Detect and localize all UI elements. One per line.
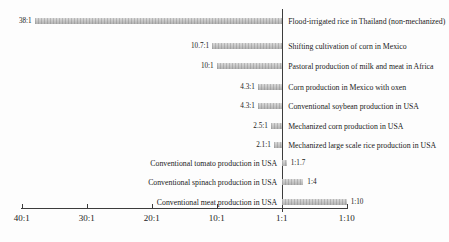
ratio-value-label: 1:1.7 [291, 159, 306, 167]
ratio-bar [258, 84, 282, 90]
ratio-bar [282, 179, 304, 185]
x-axis-tick [87, 204, 88, 208]
category-label: Shifting cultivation of corn in Mexico [288, 42, 406, 51]
category-label: Flood-irrigated rice in Thailand (non-me… [288, 17, 445, 26]
ratio-bar [35, 18, 282, 24]
ratio-bar [274, 142, 282, 148]
ratio-value-label: 2.1:1 [256, 141, 271, 149]
energy-ratio-bar-chart: 40:130:120:110:11:11:10Flood-irrigated r… [0, 0, 449, 242]
x-axis-tick [152, 204, 153, 208]
ratio-bar [282, 199, 347, 205]
x-axis-tick-label: 20:1 [144, 213, 160, 223]
ratio-value-label: 1:4 [307, 178, 316, 186]
ratio-bar [217, 63, 282, 69]
x-axis-tick [22, 204, 23, 208]
x-axis-tick-label: 30:1 [79, 213, 95, 223]
category-label: Conventional spinach production in USA [148, 178, 277, 187]
ratio-value-label: 38:1 [19, 17, 32, 25]
x-axis-tick-label: 1:10 [339, 213, 355, 223]
x-axis-tick-label: 1:1 [276, 213, 288, 223]
x-axis-tick-label: 10:1 [209, 213, 225, 223]
ratio-value-label: 2.5:1 [253, 122, 268, 130]
ratio-bar [282, 160, 287, 166]
ratio-value-label: 4.3:1 [240, 102, 255, 110]
category-label: Corn production in Mexico with oxen [288, 83, 406, 92]
ratio-bar [258, 103, 282, 109]
category-label: Conventional soybean production in USA [288, 102, 419, 111]
ratio-bar [271, 123, 282, 129]
x-axis-tick [347, 204, 348, 208]
ratio-bar [212, 43, 282, 49]
category-label: Mechanized corn production in USA [288, 122, 403, 131]
category-label: Mechanized large scale rice production i… [288, 141, 436, 150]
ratio-value-label: 4.3:1 [240, 83, 255, 91]
ratio-value-label: 10.7:1 [191, 42, 209, 50]
category-label: Conventional tomato production in USA [150, 159, 277, 168]
category-label: Pastoral production of milk and meat in … [288, 62, 433, 71]
x-axis-line [21, 208, 348, 209]
category-label: Conventional meat production in USA [157, 198, 277, 207]
ratio-value-label: 1:10 [351, 198, 364, 206]
x-axis-tick-label: 40:1 [14, 213, 30, 223]
ratio-value-label: 10:1 [201, 62, 214, 70]
